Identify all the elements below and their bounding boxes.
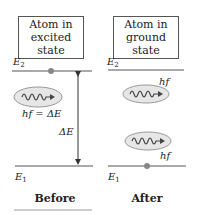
after-photon-1-icon [123,85,169,103]
after-state-box: Atom in ground state [113,16,179,59]
delta-e-label: ΔE [59,126,74,137]
after-box-line1: Atom in [114,18,178,31]
before-caption: Before [20,192,90,205]
after-photon-2-label: hf [160,150,170,161]
before-e1-label: E1 [15,171,27,184]
after-photon-2-icon [125,132,171,150]
before-e2-label: E2 [13,56,25,69]
before-state-box: Atom in excited state [18,16,84,59]
before-box-line1: Atom in [19,18,83,31]
before-photon-icon [14,87,62,107]
after-e1-label: E1 [108,171,120,184]
after-e2-label: E2 [107,56,119,69]
after-box-line2: ground state [114,31,178,57]
before-photon-label: hf = ΔE [22,108,61,119]
after-caption: After [112,192,182,205]
before-box-line2: excited state [19,31,83,57]
before-electron-dot [48,68,54,74]
after-photon-1-label: hf [159,76,169,87]
after-electron-dot [144,163,150,169]
